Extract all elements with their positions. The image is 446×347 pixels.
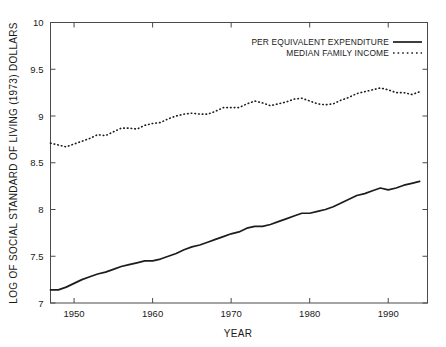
x-axis-tick-labels: 19501960197019801990 (63, 308, 398, 319)
series-median-family-income (51, 88, 420, 147)
x-tick-label: 1990 (378, 308, 399, 319)
y-tick-label: 9 (38, 111, 43, 122)
y-tick-label: 9.5 (30, 64, 43, 75)
plot-frame (51, 23, 428, 304)
x-axis-title: YEAR (224, 328, 252, 339)
legend-label-median-family-income: MEDIAN FAMILY INCOME (286, 48, 389, 58)
y-tick-label: 7 (38, 298, 43, 309)
y-axis-ticks (51, 23, 428, 304)
chart-figure: 19501960197019801990 77.588.599.510 YEAR… (0, 0, 446, 347)
x-tick-label: 1960 (142, 308, 163, 319)
y-tick-label: 10 (33, 17, 44, 28)
y-tick-label: 8 (38, 204, 43, 215)
line-chart: 19501960197019801990 77.588.599.510 YEAR… (0, 0, 446, 347)
series-per-equivalent-expenditure (51, 181, 420, 289)
legend-label-per-equivalent-expenditure: PER EQUIVALENT EXPENDITURE (251, 37, 389, 47)
y-axis-title: LOG OF SOCIAL STANDARD OF LIVING (1973) … (8, 22, 19, 303)
y-tick-label: 7.5 (30, 251, 43, 262)
y-tick-label: 8.5 (30, 157, 43, 168)
x-axis-ticks (74, 23, 388, 304)
x-tick-label: 1980 (299, 308, 320, 319)
x-tick-label: 1970 (221, 308, 242, 319)
chart-legend: PER EQUIVALENT EXPENDITURE MEDIAN FAMILY… (251, 37, 422, 58)
x-tick-label: 1950 (63, 308, 84, 319)
y-axis-tick-labels: 77.588.599.510 (30, 17, 43, 309)
